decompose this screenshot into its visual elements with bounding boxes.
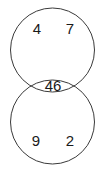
venn-label-intersection: 46 [45,78,62,93]
venn-label-top-right: 7 [66,21,74,36]
venn-label-bottom-left: 9 [32,133,40,148]
venn-diagram: 4 7 46 9 2 [0,0,106,173]
venn-label-top-left: 4 [33,21,41,36]
venn-label-bottom-right: 2 [66,133,74,148]
